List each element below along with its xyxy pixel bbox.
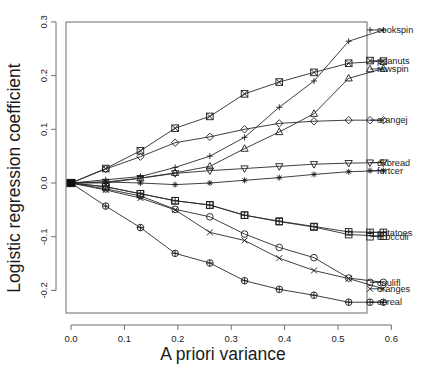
series-label-cereal: cereal [377,297,402,307]
series-potatoes [71,183,387,236]
data-point-triangle-down [276,164,283,171]
y-tick-label: 0.1 [38,123,49,136]
y-tick-label: 0.3 [38,15,49,28]
y-tick-label: 0.0 [38,176,49,189]
x-axis: 0.00.10.20.30.40.50.6 [64,325,398,344]
x-tick-label: 0.5 [331,333,344,344]
y-axis: -0.2-0.10.00.10.20.3 [38,15,56,298]
series-fortcer [71,168,386,188]
x-tick-label: 0.6 [385,333,398,344]
series-labels-group: cookspinpeanutsrawspinorangejdkbreadfort… [377,25,413,307]
series-label-cookspin: cookspin [377,25,413,35]
logistic-regression-coefficient-chart: 0.00.10.20.30.40.50.6 -0.2-0.10.00.10.20… [0,0,447,369]
y-tick-label: -0.2 [38,282,49,298]
series-oranges [71,183,386,292]
x-tick-label: 0.4 [278,333,291,344]
series-cereal [71,183,387,306]
series-label-orangej: orangej [377,115,408,125]
x-tick-label: 0.3 [225,333,238,344]
series-cookspin [71,27,386,183]
y-tick-label: -0.1 [38,229,49,245]
x-tick-label: 0.2 [171,333,184,344]
series-label-rawspin: rawspin [377,64,409,74]
data-series-group [67,27,387,306]
series-orangej [71,116,387,183]
data-point-triangle-down [345,160,352,167]
x-tick-label: 0.0 [64,333,77,344]
series-rawspin [71,65,387,186]
origin-marker-cluster [67,179,75,186]
series-label-oranges: oranges [377,284,411,294]
data-point-triangle-down [241,166,248,173]
x-axis-title: A priori variance [160,344,285,364]
chart-figure: 0.00.10.20.30.40.50.6 -0.2-0.10.00.10.20… [0,0,447,369]
series-caulifl [71,183,387,286]
x-tick-label: 0.1 [118,333,131,344]
data-point-triangle-down [310,162,317,169]
y-tick-label: 0.2 [38,69,49,82]
series-label-fortcer: fortcer [377,166,403,176]
y-axis-title: Logistic regression coefficient [4,63,24,292]
series-label-broccoli: broccoli [377,232,409,242]
